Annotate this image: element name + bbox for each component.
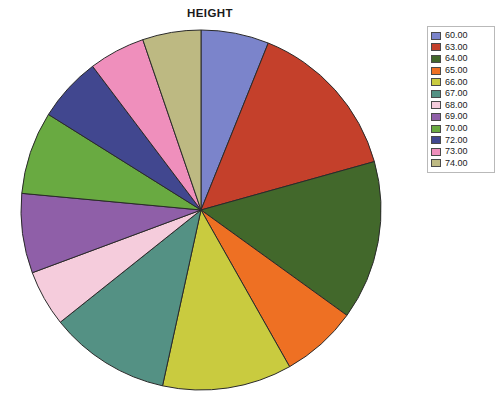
legend-color-swatch [431,90,441,98]
legend-color-swatch [431,125,441,133]
legend-item-label: 66.00 [445,77,468,88]
legend-item-label: 65.00 [445,65,468,76]
legend-color-swatch [431,43,441,51]
pie-svg [0,0,420,409]
legend-item[interactable]: 63.00 [431,42,491,54]
legend-color-swatch [431,101,441,109]
legend-item[interactable]: 64.00 [431,53,491,65]
legend-item[interactable]: 72.00 [431,134,491,146]
legend-item-label: 67.00 [445,88,468,99]
legend-color-swatch [431,159,441,167]
legend-item-label: 72.00 [445,135,468,146]
legend-item-label: 69.00 [445,111,468,122]
legend-item[interactable]: 73.00 [431,146,491,158]
legend-item[interactable]: 67.00 [431,88,491,100]
legend-color-swatch [431,67,441,75]
legend-item[interactable]: 74.00 [431,158,491,170]
chart-legend: 60.0063.0064.0065.0066.0067.0068.0069.00… [427,26,495,173]
legend-item[interactable]: 65.00 [431,65,491,77]
pie-chart-figure: HEIGHT 60.0063.0064.0065.0066.0067.0068.… [0,0,501,409]
pie-plot-area [0,0,420,409]
legend-item-label: 63.00 [445,42,468,53]
legend-color-swatch [431,113,441,121]
legend-item-label: 73.00 [445,146,468,157]
legend-color-swatch [431,136,441,144]
legend-item-label: 70.00 [445,123,468,134]
legend-item[interactable]: 66.00 [431,76,491,88]
legend-item-label: 68.00 [445,100,468,111]
legend-item-label: 60.00 [445,30,468,41]
legend-item-label: 64.00 [445,53,468,64]
legend-item[interactable]: 68.00 [431,100,491,112]
legend-item[interactable]: 60.00 [431,30,491,42]
legend-item[interactable]: 70.00 [431,123,491,135]
legend-item[interactable]: 69.00 [431,111,491,123]
legend-color-swatch [431,148,441,156]
legend-item-label: 74.00 [445,158,468,169]
legend-color-swatch [431,32,441,40]
legend-color-swatch [431,55,441,63]
legend-color-swatch [431,78,441,86]
